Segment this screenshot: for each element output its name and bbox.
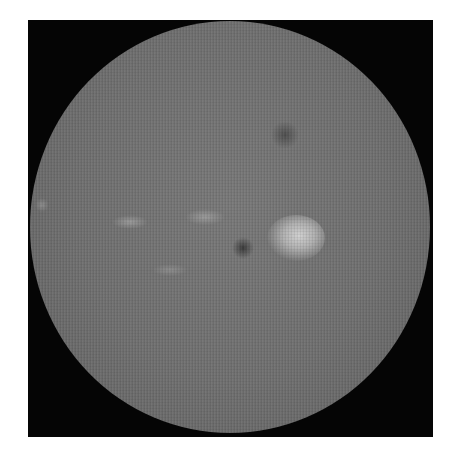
retinal-fundus-image [30,21,430,433]
image-texture [30,21,430,433]
